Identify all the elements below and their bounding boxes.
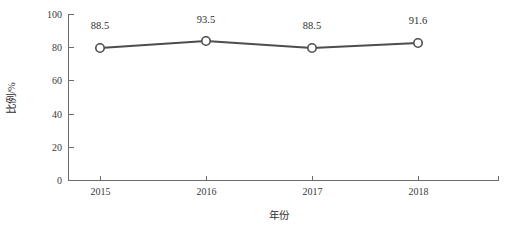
x-tick-label-2015: 2015 xyxy=(91,186,111,197)
y-axis-tick-labels: 100 80 60 40 20 0 xyxy=(47,9,62,186)
data-point-2018 xyxy=(414,39,422,47)
x-axis-ticks xyxy=(101,176,499,181)
data-label-2016: 93.5 xyxy=(197,14,215,25)
y-tick-label-40: 40 xyxy=(52,109,62,120)
y-tick-label-100: 100 xyxy=(47,9,62,20)
line-chart: 100 80 60 40 20 0 2015 2016 2017 2018 xyxy=(0,0,516,237)
x-tick-label-2016: 2016 xyxy=(197,186,217,197)
x-tick-label-2018: 2018 xyxy=(409,186,429,197)
data-point-2017 xyxy=(308,44,316,52)
series-line-ratio xyxy=(100,41,418,48)
data-point-2016 xyxy=(202,37,210,45)
y-axis-title: 比例/% xyxy=(5,82,17,114)
data-label-2018: 91.6 xyxy=(409,15,427,26)
y-tick-label-20: 20 xyxy=(52,142,62,153)
data-point-2015 xyxy=(96,44,104,52)
x-axis-tick-labels: 2015 2016 2017 2018 xyxy=(91,186,429,197)
x-axis-title: 年份 xyxy=(269,209,290,221)
series-data-labels: 88.5 93.5 88.5 91.6 xyxy=(91,14,427,31)
x-tick-label-2017: 2017 xyxy=(303,186,323,197)
data-label-2015: 88.5 xyxy=(91,20,109,31)
chart-canvas: 100 80 60 40 20 0 2015 2016 2017 2018 xyxy=(0,0,516,237)
y-axis-ticks xyxy=(69,15,74,181)
y-tick-label-60: 60 xyxy=(52,75,62,86)
data-label-2017: 88.5 xyxy=(303,20,321,31)
y-tick-label-0: 0 xyxy=(57,175,62,186)
y-tick-label-80: 80 xyxy=(52,42,62,53)
